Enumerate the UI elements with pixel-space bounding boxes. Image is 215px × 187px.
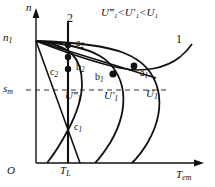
point-label-c2-sub: 2 [54,71,58,79]
curve-label-u-prime-1: U′1 [104,90,118,103]
y-axis [33,8,40,163]
curve-label-u1-sub: 1 [154,92,158,101]
curve-label-1: 1 [176,33,182,45]
point-a1 [131,63,138,70]
curve-label-u-triple-prime-1: U‴1 [65,90,82,103]
figure-title: U‴₁<U′₁<U₁ [101,7,158,18]
point-b1 [109,70,116,77]
x-tick-tl-sub: L [66,169,70,178]
y-axis-label: n [26,2,32,13]
curve-label-u-triple-prime-main: U‴ [65,89,78,101]
y-tick-n1-sub: 1 [9,36,13,45]
point-label-b2-sub: 2 [81,66,85,74]
point-label-a1-sub: 1 [144,72,148,80]
point-label-a1: a1 [140,68,148,80]
x-tick-tl-label: TL [60,165,71,178]
x-axis-label-sub: em [182,173,191,182]
point-label-b1: b1 [95,72,104,84]
torque-speed-characteristic-figure: n Tem O n1 sm TL U‴₁<U′₁<U₁ 1 2 a2 b2 c2… [0,0,215,187]
curve-label-u-triple-prime-sub: 1 [78,94,82,103]
point-a2 [65,42,71,48]
x-axis-label: Tem [176,169,191,182]
curve-label-u1: U1 [146,88,158,101]
curve-label-u-prime-sub: 1 [114,94,118,103]
point-label-a2: a2 [76,38,84,50]
point-b2 [65,54,71,60]
point-c2 [65,66,71,72]
point-label-c1-sub: 1 [78,126,82,134]
y-tick-n1-label: n1 [3,32,12,45]
point-label-b2: b2 [76,62,85,74]
point-label-a2-sub: 2 [80,42,84,50]
curve-label-u1-main: U [146,87,154,99]
curve-label-u-prime-main: U′ [104,89,114,101]
origin-label: O [7,165,15,176]
point-label-c1: c1 [74,122,82,134]
y-tick-sm-sub: m [7,87,13,96]
y-tick-sm-label: sm [3,83,13,96]
point-label-b1-sub: 1 [100,76,104,84]
curve-label-2: 2 [67,12,73,24]
point-label-c2: c2 [50,67,58,79]
